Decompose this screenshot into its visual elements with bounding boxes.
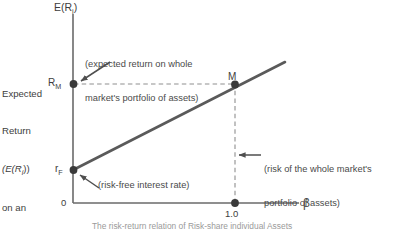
- annotation-market-risk-line-2: portfolio of assets): [264, 198, 372, 209]
- origin-label: 0: [61, 197, 66, 208]
- y-axis-title-text: E(R: [54, 1, 72, 13]
- y-axis-desc-line-3: (E(Ri)): [2, 163, 48, 177]
- figure-caption: The risk-return relation of Risk-share i…: [92, 222, 292, 229]
- annotation-expected-return-line-2: market's portfolio of assets): [85, 93, 198, 104]
- annotation-expected-return: (expected return on whole market's portf…: [85, 36, 198, 127]
- y-axis-desc-line-2: Return: [2, 125, 48, 137]
- label-risk-free: rF: [55, 163, 63, 177]
- sml-figure: E(Ri) Expected Return (E(Ri)) on an Asse…: [0, 0, 396, 229]
- annotation-risk-free: (risk-free interest rate): [98, 180, 189, 191]
- label-market-portfolio: M: [228, 71, 236, 83]
- point-beta-one: [231, 199, 239, 207]
- y-axis-description: Expected Return (E(Ri)) on an Asset or P…: [2, 63, 48, 229]
- y-axis-desc-line-4: on an: [2, 202, 48, 214]
- y-axis-desc-line-1: Expected: [2, 88, 48, 100]
- annotation-expected-return-line-1: (expected return on whole: [85, 59, 198, 70]
- label-market-return: RM: [48, 77, 61, 91]
- annotation-market-risk-line-1: (risk of the whole market's: [264, 164, 372, 175]
- label-risk-free-subscript: F: [58, 168, 62, 177]
- point-market-return: [70, 80, 78, 88]
- x-tick-label-one: 1.0: [225, 208, 238, 219]
- annotation-market-risk: (risk of the whole market's portfolio of…: [264, 141, 372, 229]
- y-axis-desc-expr-suffix: )): [23, 163, 29, 174]
- y-axis-desc-expr-prefix: (E(R: [2, 163, 22, 174]
- y-axis-title-close: ): [74, 1, 78, 13]
- y-axis-title: E(Ri): [54, 1, 77, 17]
- arrow-risk-free: [80, 175, 99, 188]
- point-risk-free: [70, 166, 78, 174]
- label-market-return-subscript: M: [55, 82, 61, 91]
